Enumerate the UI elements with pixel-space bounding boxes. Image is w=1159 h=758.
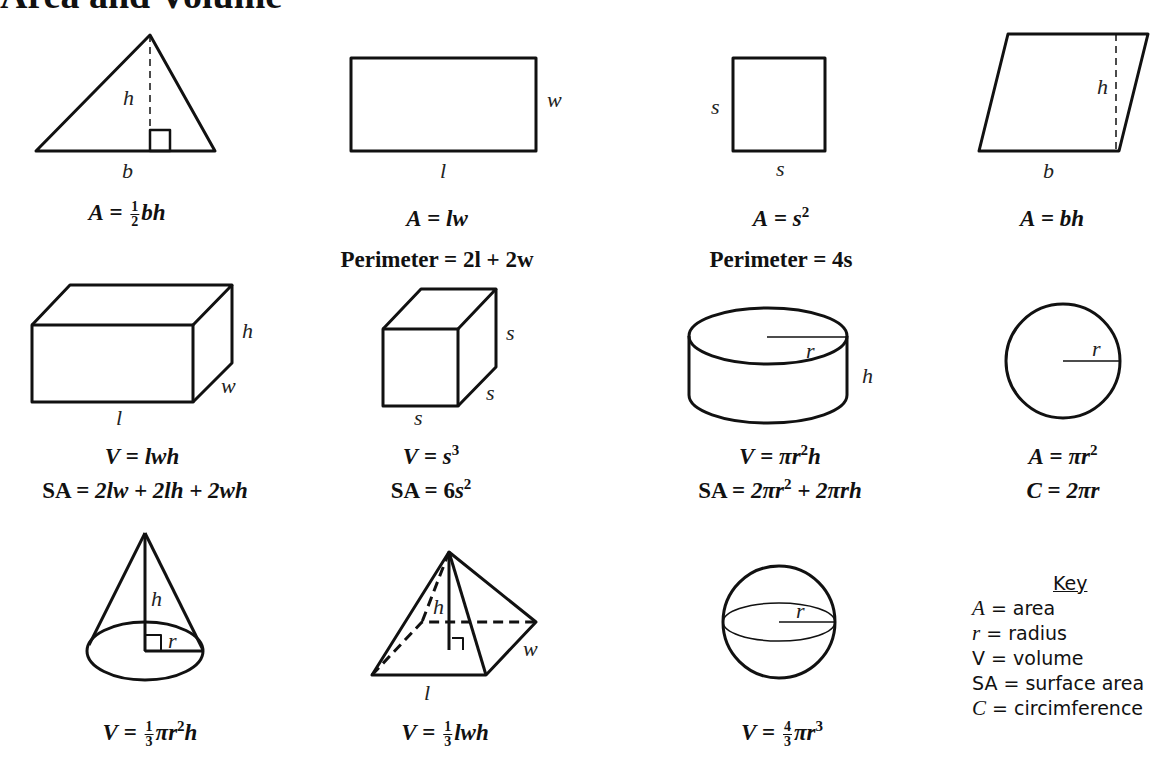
fraction: 12 [130,200,139,229]
square-side-left-label: s [711,96,720,118]
cube-surface-area-formula: SA = 6s2 [391,478,472,503]
key-item: SA = surface area [972,671,1144,696]
cone-shape [87,533,203,680]
cube-side-bottom-label: s [414,407,423,429]
prism-surface-area-formula: SA = 2lw + 2lh + 2wh [42,478,248,503]
prism-length-label: l [116,407,122,429]
fraction: 43 [783,720,792,749]
parallelogram-base-label: b [1043,160,1054,182]
cube-side-depth-label: s [486,382,495,404]
cylinder-radius-label: r [806,340,815,362]
fraction: 13 [443,720,452,749]
pyramid-width-label: w [523,638,538,660]
key-item: r = radius [972,621,1144,646]
cone-radius-label: r [168,630,177,652]
cylinder-surface-area-formula: SA = 2πr2 + 2πrh [698,478,862,503]
square-perimeter-formula: Perimeter = 4s [710,247,853,272]
rectangle-length-label: l [440,160,446,182]
circle-radius-label: r [1092,338,1101,360]
rectangular-prism-shape [32,285,232,402]
prism-width-label: w [221,375,236,397]
rectangle-area-formula: A = lw [406,206,468,231]
triangle-height-label: h [123,87,134,109]
cylinder-height-label: h [862,365,873,387]
cube-side-right-label: s [506,322,515,344]
cube-volume-formula: V = s3 [403,444,459,469]
sphere-radius-label: r [796,600,805,622]
key-legend: Key A = area r = radius V = volume SA = … [972,572,1144,721]
triangle-area-formula: A = 12bh [88,200,165,229]
prism-volume-formula: V = lwh [105,444,179,469]
cylinder-shape [689,308,847,423]
circle-shape [1006,304,1120,418]
square-area-formula: A = s2 [753,206,809,231]
square-side-bottom-label: s [776,158,785,180]
parallelogram-area-formula: A = bh [1020,206,1084,231]
cone-volume-formula: V = 13πr2h [103,720,198,749]
circle-area-formula: A = πr2 [1029,444,1098,469]
cube-shape [383,289,496,406]
parallelogram-shape [979,34,1148,151]
key-item: V = volume [972,646,1144,671]
prism-height-label: h [242,320,253,342]
key-item: C = circimference [972,696,1144,721]
sphere-shape [723,566,835,678]
key-item: A = area [972,596,1144,621]
pyramid-length-label: l [424,682,430,704]
pyramid-height-label: h [433,596,444,618]
cylinder-volume-formula: V = πr2h [739,444,821,469]
pyramid-volume-formula: V = 13lwh [401,720,488,749]
triangle-base-label: b [122,160,133,182]
sphere-volume-formula: V = 43πr3 [741,720,823,749]
square-shape [733,58,825,151]
circle-circumference-formula: C = 2πr [1027,478,1100,503]
cone-height-label: h [151,588,162,610]
fraction: 13 [145,720,154,749]
rectangle-shape [351,58,536,151]
parallelogram-height-label: h [1097,76,1108,98]
pyramid-shape [372,552,536,675]
rectangle-perimeter-formula: Perimeter = 2l + 2w [340,247,533,272]
rectangle-width-label: w [547,89,562,111]
key-title: Key [1053,572,1144,594]
